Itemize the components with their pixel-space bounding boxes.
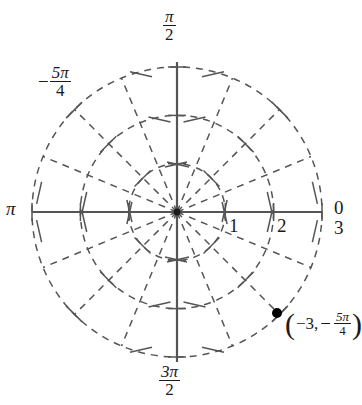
radial-label-1: 1 [229,216,239,235]
angle-label-top-numerator: π [163,8,176,26]
ray-10pi-8 [75,212,178,315]
annotation-close-paren: ) [352,312,362,336]
tick [130,347,152,352]
angle-label-zero: 0 [334,198,344,217]
ray-6pi-8 [75,110,178,213]
angle-label-upper-left-numerator: 5π [50,64,71,82]
angle-label-bottom-denominator: 2 [159,381,180,398]
angle-label-pi: π [6,199,16,218]
annotation-open-paren: ( [285,312,295,336]
angle-label-negative-5pi-over-4: − 5π 4 [38,64,71,100]
angle-label-top-denominator: 2 [163,26,176,43]
ray-7pi-8 [43,157,177,213]
ray-13pi-8 [177,212,233,346]
ray-3pi-8 [177,78,233,212]
tick [202,72,224,77]
angle-label-upper-left-sign: − [38,72,50,91]
tick [312,220,317,242]
angle-label-bottom-numerator: 3π [159,363,180,381]
tick [37,182,42,204]
ray-15pi-8 [177,212,311,268]
radial-label-2: 2 [277,216,287,235]
ray-11pi-8 [122,212,178,346]
data-point-marker[interactable] [272,308,282,318]
ray-2pi-8 [177,110,280,213]
annotation-radius-value: −3, [296,315,318,332]
ray-pi-8 [177,157,311,213]
tick [149,117,171,122]
angle-label-upper-left-denominator: 4 [50,82,71,99]
ray-5pi-8 [122,78,178,212]
tick [312,182,317,204]
radial-label-3: 3 [334,218,344,237]
annotation-theta-denominator: 4 [334,324,351,337]
origin-dot [174,209,181,216]
annotation-theta-sign: − [320,314,332,333]
angle-label-pi-over-2: π 2 [163,8,176,44]
angle-label-3pi-over-2: 3π 2 [159,363,180,399]
point-annotation: ( −3, − 5π 4 ) [285,310,362,338]
tick [37,220,42,242]
ray-9pi-8 [43,212,177,268]
annotation-theta-numerator: 5π [334,310,351,324]
